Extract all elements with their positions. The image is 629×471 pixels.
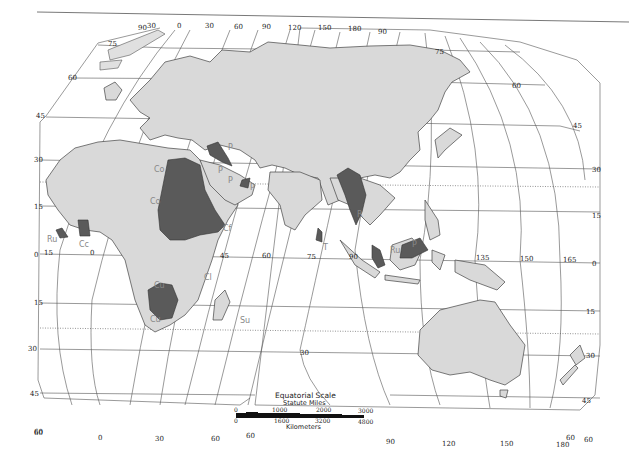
- lat-label: 15: [34, 203, 43, 211]
- lon-label: 180: [348, 25, 361, 33]
- lat-label: 0: [592, 260, 596, 268]
- lat-label: 60: [68, 74, 77, 82]
- scale-mile-tick: 2000: [316, 406, 331, 413]
- lon-label: 90: [386, 438, 395, 446]
- lat-label: 30: [28, 345, 37, 353]
- lon-label: 60: [211, 435, 220, 443]
- lon-label: 150: [520, 255, 533, 263]
- lon-label: 90: [378, 28, 387, 36]
- lon-label: 60: [34, 428, 43, 436]
- lat-label: 45: [573, 122, 582, 130]
- scale-bar-line: [236, 412, 364, 418]
- lon-label: 90: [349, 253, 358, 261]
- region-label: R: [357, 210, 363, 219]
- region-label: Cl: [204, 273, 212, 282]
- lat-label: 45: [30, 390, 39, 398]
- lat-label: 15: [592, 212, 601, 220]
- scale-km-label: Kilometers: [286, 423, 321, 431]
- region-label: Cf: [223, 224, 232, 233]
- scale-mile-tick: 3000: [358, 407, 373, 414]
- region-label: T: [322, 243, 328, 252]
- scale-km-tick: 4800: [358, 418, 373, 425]
- region-label: P: [412, 240, 417, 249]
- scale-bar: Equatorial Scale Statute Miles 0 1000 20…: [234, 391, 373, 431]
- region-label: P: [218, 166, 223, 175]
- lon-label: 30: [147, 22, 156, 30]
- lat-label: 30: [300, 349, 309, 357]
- lat-label: 60: [584, 436, 593, 444]
- region-label: Co: [154, 165, 165, 174]
- lon-label: 150: [500, 440, 513, 448]
- region-label: Cu: [154, 281, 165, 290]
- scale-km-tick: 0: [234, 417, 238, 424]
- lat-label: 45: [582, 397, 591, 405]
- landmasses: [46, 30, 585, 398]
- region-label: P: [250, 183, 255, 192]
- lon-label: 15: [44, 249, 53, 257]
- australia: [418, 300, 525, 385]
- region-label: Cc: [79, 240, 89, 249]
- lat-label: 15: [34, 299, 43, 307]
- lon-label: 60: [262, 252, 271, 260]
- region-label: Su: [240, 316, 250, 325]
- lon-label: 90: [138, 24, 147, 32]
- latitude-labels-right: 75 60 45 30 15 0 15 30 45 60: [435, 48, 601, 444]
- lat-label: 45: [36, 112, 45, 120]
- lon-label: 0: [177, 22, 181, 30]
- top-rule: [37, 12, 629, 22]
- lat-label: 15: [586, 308, 595, 316]
- lat-label: 30: [586, 352, 595, 360]
- lat-label: 30: [34, 156, 43, 164]
- lon-label: 60: [566, 434, 575, 442]
- lon-label: 150: [318, 24, 331, 32]
- india: [268, 172, 322, 230]
- region-label: Ru: [390, 246, 400, 255]
- sri-lanka-region: [316, 228, 322, 242]
- region-label: Ru: [47, 235, 57, 244]
- region-ghana: [78, 220, 90, 236]
- lat-label: 60: [512, 82, 521, 90]
- region-label: Co: [150, 197, 161, 206]
- lon-label: 60: [246, 432, 255, 440]
- longitude-labels-bottom: 60 0 30 60 60 90 120 150 180 60: [34, 428, 575, 449]
- lon-label: 0: [90, 249, 94, 257]
- lat-label: 30: [592, 166, 601, 174]
- lon-label: 120: [442, 440, 455, 448]
- lat-label: 0: [34, 251, 38, 259]
- region-label: P: [228, 176, 233, 185]
- lon-label: 165: [563, 256, 576, 264]
- lat-label: 75: [108, 40, 117, 48]
- lon-label: 0: [98, 434, 102, 442]
- region-malaya: [372, 245, 385, 268]
- longitude-labels-top: 90 30 0 30 60 90 120 150 180 90: [138, 22, 387, 36]
- scale-mile-tick: 1000: [272, 406, 287, 413]
- region-label: P: [228, 143, 233, 152]
- lon-label: 60: [234, 23, 243, 31]
- lon-label: 180: [556, 441, 569, 449]
- lon-label: 120: [288, 24, 301, 32]
- scale-mile-tick: 0: [234, 406, 238, 413]
- region-west-africa: [56, 228, 68, 238]
- lon-label: 30: [155, 435, 164, 443]
- lat-label: 75: [435, 48, 444, 56]
- region-label: Cu: [150, 315, 161, 324]
- lon-label: 135: [476, 254, 489, 262]
- lon-label: 45: [220, 252, 229, 260]
- latitude-labels-left: 45 30 15 0 15 30 45 60: [28, 112, 45, 437]
- lon-label: 30: [205, 22, 214, 30]
- lon-label: 90: [262, 23, 271, 31]
- world-map: P P P P Co Co Ru Cc Cf Cl Cu Cu Su T R R…: [0, 0, 629, 471]
- lon-label: 75: [307, 253, 316, 261]
